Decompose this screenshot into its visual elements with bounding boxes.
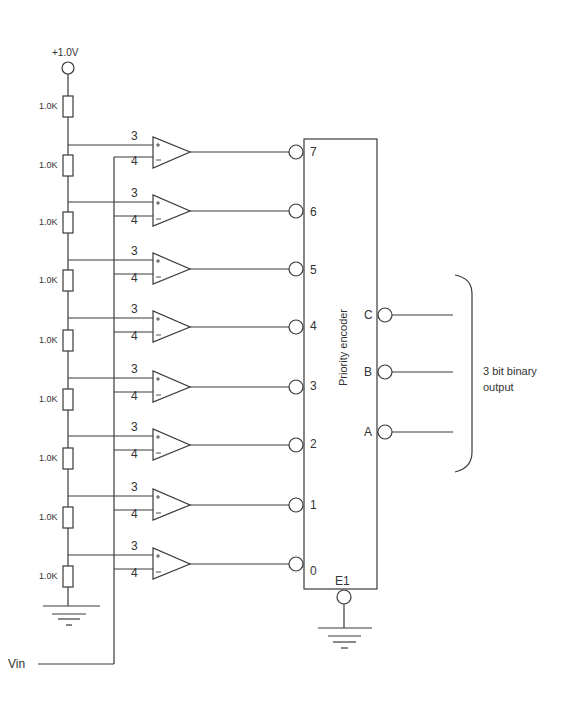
- encoder-title: Priority encoder: [338, 309, 349, 386]
- comparator-minus-pin: 4: [131, 508, 138, 520]
- output-label-a: A: [364, 426, 372, 438]
- output-annotation-line2: output: [483, 382, 514, 393]
- comparator-icon: [153, 253, 190, 284]
- comparator-icon: [153, 311, 190, 342]
- comparator-plus-pin: 3: [131, 245, 138, 257]
- comparator-icon: [153, 548, 190, 579]
- encoder-input-label: 6: [310, 206, 317, 218]
- comparator-plus-pin: 3: [131, 540, 138, 552]
- comparator-icon: [153, 137, 190, 168]
- comparator-minus-pin: 4: [131, 214, 138, 226]
- output-annotation-line1: 3 bit binary: [483, 366, 537, 377]
- inversion-bubble-icon: [378, 425, 392, 439]
- encoder-ground-icon: [318, 628, 372, 648]
- inversion-bubble-icon: [289, 498, 303, 512]
- encoder-output-bubbles: [378, 308, 392, 439]
- inversion-bubble-icon: [289, 320, 303, 334]
- comparator-minus-pin: 4: [131, 330, 138, 342]
- encoder-input-label: 5: [310, 264, 317, 276]
- resistor-label: 1.0K: [39, 454, 58, 463]
- encoder-input-label: 7: [310, 146, 317, 158]
- comparator-minus-pin: 4: [131, 567, 138, 579]
- ground-icon: [43, 606, 100, 625]
- encoder-input-label: 0: [310, 565, 317, 577]
- enable-bubble-icon: [337, 590, 351, 604]
- output-label-b: B: [364, 366, 372, 378]
- comparator-plus-pin: 3: [131, 421, 138, 433]
- inversion-bubble-icon: [289, 145, 303, 159]
- comparator-plus-pin: 3: [131, 187, 138, 199]
- encoder-input-bubbles: [289, 145, 303, 571]
- inversion-bubble-icon: [378, 365, 392, 379]
- inversion-bubble-icon: [289, 380, 303, 394]
- resistor-ladder: [63, 96, 73, 587]
- supply-terminal-icon: [62, 62, 74, 74]
- comparator-icon: [153, 429, 190, 460]
- supply-label: +1.0V: [52, 48, 78, 58]
- output-label-c: C: [364, 309, 373, 321]
- resistor-label: 1.0K: [39, 336, 58, 345]
- comparator-minus-pin: 4: [131, 272, 138, 284]
- comparator-bank: [68, 137, 289, 579]
- resistor-label: 1.0K: [39, 395, 58, 404]
- comparator-plus-pin: 3: [131, 481, 138, 493]
- resistor-label: 1.0K: [39, 161, 58, 170]
- enable-pin-label: E1: [335, 575, 350, 587]
- resistor-icon: [63, 507, 73, 528]
- resistor-label: 1.0K: [39, 276, 58, 285]
- encoder-input-label: 2: [310, 438, 317, 450]
- resistor-label: 1.0K: [39, 218, 58, 227]
- comparator-plus-pin: 3: [131, 303, 138, 315]
- resistor-icon: [63, 96, 73, 117]
- resistor-icon: [63, 389, 73, 410]
- resistor-icon: [63, 270, 73, 291]
- resistor-icon: [63, 448, 73, 469]
- comparator-plus-pin: 3: [131, 363, 138, 375]
- encoder-input-label: 1: [310, 499, 317, 511]
- comparator-minus-pin: 4: [131, 448, 138, 460]
- schematic-wires: [0, 0, 581, 711]
- comparator-minus-pin: 4: [131, 390, 138, 402]
- encoder-input-label: 4: [310, 320, 317, 332]
- resistor-label: 1.0K: [39, 513, 58, 522]
- resistor-label: 1.0K: [39, 102, 58, 111]
- comparator-icon: [153, 195, 190, 226]
- resistor-icon: [63, 330, 73, 351]
- resistor-icon: [63, 566, 73, 587]
- vin-label: Vin: [8, 658, 25, 670]
- resistor-icon: [63, 212, 73, 233]
- inversion-bubble-icon: [289, 438, 303, 452]
- comparator-icon: [153, 371, 190, 402]
- resistor-label: 1.0K: [39, 572, 58, 581]
- inversion-bubble-icon: [289, 262, 303, 276]
- resistor-icon: [63, 155, 73, 176]
- comparator-minus-pin: 4: [131, 155, 138, 167]
- comparator-plus-pin: 3: [131, 130, 138, 142]
- comparator-icon: [153, 489, 190, 520]
- flash-adc-schematic: +1.0V 1.0K 1.0K 1.0K 1.0K 1.0K 1.0K 1.0K…: [0, 0, 581, 711]
- inversion-bubble-icon: [289, 204, 303, 218]
- inversion-bubble-icon: [289, 557, 303, 571]
- inversion-bubble-icon: [378, 308, 392, 322]
- encoder-input-label: 3: [310, 380, 317, 392]
- output-brace-icon: [455, 275, 472, 472]
